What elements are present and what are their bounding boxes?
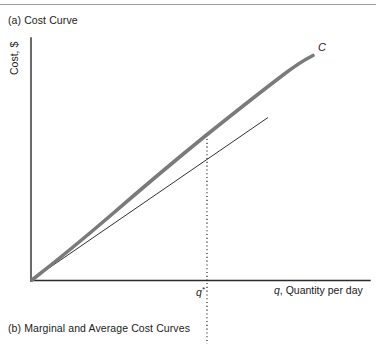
cost-curve-figure: (a) Cost Curve Cost, $ C q* q, Quantity … — [0, 0, 376, 344]
panel-b-title: (b) Marginal and Average Cost Curves — [8, 322, 190, 334]
x-axis-label: q, Quantity per day — [274, 284, 363, 296]
qstar-label-star: * — [202, 285, 206, 294]
y-axis-label: Cost, $ — [8, 42, 20, 75]
curve-label-c: C — [318, 41, 326, 53]
tangent-ray-line — [32, 118, 269, 281]
total-cost-curve — [32, 56, 313, 281]
cost-curve-plot: Cost, $ C q* q, Quantity per day — [0, 0, 376, 344]
qstar-label: q* — [196, 285, 206, 298]
x-axis-label-text: , Quantity per day — [280, 284, 364, 296]
